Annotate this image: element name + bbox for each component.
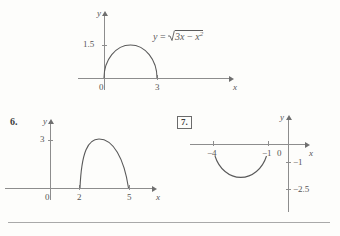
equation-label: y = 3x − x2 [153,30,203,42]
radical-hook-icon [168,30,175,41]
textbook-page: y x 1.5 0 3 y = 3x − x2 6. [0,0,340,236]
radical-sign-icon: 3x − x2 [168,30,203,42]
curve-lower-semicircle [170,110,340,222]
radicand-first: 3x [175,31,184,42]
page-divider [8,222,330,223]
figure-problem-6: 6. y x 3 0 2 5 [0,110,175,215]
figure-problem-7: 7. y x −4 −1 0 −1 −2.5 [170,110,340,222]
radical-vinculum [175,30,203,31]
radicand-second-exponent: 2 [200,30,204,38]
figure-example: y x 1.5 0 3 y = 3x − x2 [0,0,270,105]
curve-semicircle [0,0,270,105]
curve-arch [0,110,175,215]
